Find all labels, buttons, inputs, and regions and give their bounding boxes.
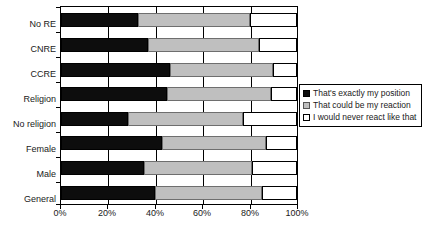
plot-area: [60, 6, 298, 205]
bar-segment: [61, 63, 170, 77]
bar-segment: [61, 13, 138, 27]
bar-row: [61, 112, 297, 126]
chart-legend: That's exactly my position That could be…: [299, 84, 422, 127]
bar-segment: [167, 87, 271, 101]
x-axis-label: 40%: [146, 208, 164, 219]
bar-row: [61, 87, 297, 101]
y-axis-label: Male: [0, 169, 56, 179]
legend-item: That's exactly my position: [303, 87, 419, 99]
bar-segment: [250, 13, 297, 27]
bar-row: [61, 38, 297, 52]
x-axis-label: 80%: [241, 208, 259, 219]
legend-label: That's exactly my position: [313, 88, 410, 98]
y-axis-label: General: [0, 194, 56, 204]
bar-segment: [262, 186, 297, 200]
bar-segment: [162, 136, 266, 150]
bar-segment: [170, 63, 274, 77]
bar-segment: [155, 186, 261, 200]
legend-item: I would never react like that: [303, 111, 419, 123]
bar-segment: [148, 38, 259, 52]
legend-swatch-icon: [303, 90, 310, 97]
legend-swatch-icon: [303, 102, 310, 109]
y-axis-label: No RE: [0, 19, 56, 29]
legend-swatch-icon: [303, 114, 310, 121]
bar-segment: [138, 13, 250, 27]
bar-segment: [61, 161, 144, 175]
bar-segment: [61, 186, 155, 200]
bar-segment: [144, 161, 253, 175]
bar-segment: [271, 87, 297, 101]
x-axis-labels: 0% 20% 40% 60% 80% 100%: [0, 208, 424, 224]
stacked-bar-chart: No RE CNRE CCRE Religion No religion Fem…: [0, 0, 424, 238]
bar-segment: [266, 136, 297, 150]
bar-segment: [61, 38, 148, 52]
bar-row: [61, 161, 297, 175]
y-axis-labels: No RE CNRE CCRE Religion No religion Fem…: [0, 6, 56, 205]
legend-label: That could be my reaction: [313, 100, 411, 110]
y-axis-label: CNRE: [0, 44, 56, 54]
y-axis-label: CCRE: [0, 69, 56, 79]
bar-row: [61, 13, 297, 27]
bar-rows: [61, 7, 297, 204]
bar-segment: [61, 136, 162, 150]
bar-segment: [273, 63, 297, 77]
bar-segment: [61, 112, 128, 126]
x-axis-label: 100%: [285, 208, 308, 219]
bar-row: [61, 63, 297, 77]
y-axis-label: No religion: [0, 119, 56, 129]
x-axis-label: 60%: [193, 208, 211, 219]
legend-item: That could be my reaction: [303, 99, 419, 111]
bar-segment: [128, 112, 242, 126]
bar-segment: [259, 38, 297, 52]
x-axis-label: 20%: [98, 208, 116, 219]
bar-segment: [243, 112, 297, 126]
x-axis-label: 0%: [53, 208, 66, 219]
bar-row: [61, 136, 297, 150]
bar-segment: [252, 161, 297, 175]
bar-segment: [61, 87, 167, 101]
legend-label: I would never react like that: [313, 112, 416, 122]
bar-row: [61, 186, 297, 200]
y-axis-label: Female: [0, 144, 56, 154]
y-axis-label: Religion: [0, 94, 56, 104]
